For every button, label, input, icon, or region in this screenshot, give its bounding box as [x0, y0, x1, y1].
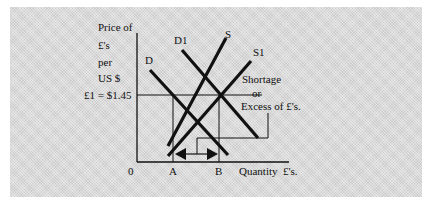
- arrow-left-head-icon: [175, 148, 186, 160]
- x-axis-label: Quantity £'s.: [239, 165, 298, 177]
- annotation-line-2: or: [252, 87, 262, 99]
- annotation-line-3: Excess of £'s.: [241, 100, 301, 112]
- point-a-label: A: [169, 165, 177, 177]
- curve-label-s: S: [225, 28, 231, 40]
- price-label: £1 = $1.45: [84, 89, 132, 101]
- demand-curve-d: [150, 70, 228, 155]
- y-axis-label-line-3: per: [98, 56, 112, 68]
- curve-label-d1: D1: [174, 34, 187, 46]
- origin-label: 0: [128, 165, 134, 177]
- supply-curve-s1: [168, 61, 251, 156]
- y-axis-label-line-4: US $: [98, 72, 121, 84]
- curve-label-s1: S1: [253, 46, 265, 58]
- arrow-right-head-icon: [207, 148, 218, 160]
- supply-demand-diagram: Price of £'s per US $ £1 = $1.45 D D1 S …: [0, 0, 431, 210]
- annotation-line-1: Shortage: [242, 73, 281, 85]
- y-axis-label-line-1: Price of: [98, 21, 133, 33]
- point-b-label: B: [215, 165, 222, 177]
- curve-label-d: D: [145, 54, 153, 66]
- y-axis-label-line-2: £'s: [98, 39, 110, 51]
